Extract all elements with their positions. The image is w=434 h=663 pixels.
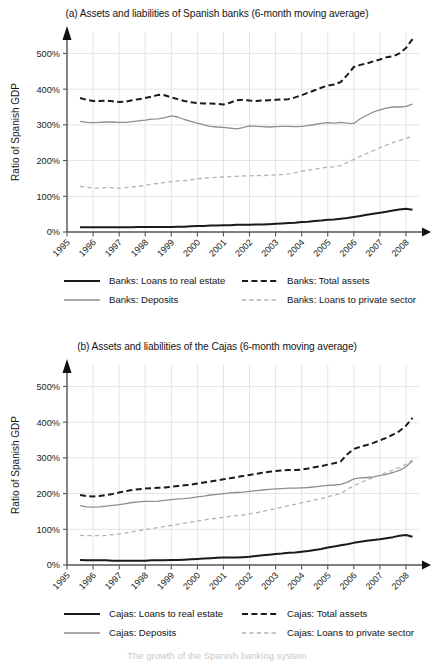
y-tick-label: 100% [37, 525, 61, 535]
gridlines [67, 32, 419, 232]
legend-item[interactable]: Banks: Loans to real estate [62, 272, 240, 289]
x-tick-label: 1999 [155, 237, 176, 258]
x-tick-label: 2008 [390, 570, 411, 591]
x-tick-label: 1996 [77, 237, 98, 258]
x-tick-label: 2004 [285, 570, 306, 591]
series-line [80, 209, 412, 228]
x-tick-label: 2002 [233, 570, 254, 591]
legend-item-label: Banks: Loans to private sector [287, 294, 416, 306]
legend-item-label: Cajas: Deposits [109, 627, 176, 639]
panel-b-legend: Cajas: Loans to real estateCajas: Total … [0, 603, 434, 641]
x-tick-label: 1999 [155, 570, 176, 591]
chart-panel-a: (a) Assets and liabilities of Spanish ba… [0, 0, 434, 333]
y-tick-label: 0% [47, 227, 60, 237]
panel-b-title: (b) Assets and liabilities of the Cajas … [0, 333, 434, 353]
x-tick-label: 1996 [77, 570, 98, 591]
x-tick-label: 2007 [364, 570, 385, 591]
legend-item-label: Cajas: Loans to private sector [287, 627, 414, 639]
x-tick-label: 2005 [311, 570, 332, 591]
legend-line-swatch-icon [240, 294, 280, 306]
x-axis-ticks: 1995199619971998199920002001200220032004… [51, 565, 411, 592]
legend-item[interactable]: Cajas: Loans to private sector [240, 624, 422, 641]
axes [63, 26, 432, 237]
x-tick-label: 2003 [259, 570, 280, 591]
x-tick-label: 1997 [103, 237, 124, 258]
y-tick-label: 300% [37, 453, 61, 463]
series-line [80, 418, 412, 497]
y-tick-label: 500% [37, 49, 61, 59]
x-tick-label: 2007 [364, 237, 385, 258]
x-tick-label: 1998 [129, 570, 150, 591]
figure-root: (a) Assets and liabilities of Spanish ba… [0, 0, 434, 663]
legend-line-swatch-icon [240, 627, 280, 639]
legend-line-swatch-icon [240, 275, 280, 287]
series-line [80, 460, 412, 536]
x-tick-label: 2001 [207, 570, 228, 591]
y-tick-label: 200% [37, 156, 61, 166]
x-tick-label: 2003 [259, 237, 280, 258]
series-line [80, 461, 412, 507]
y-axis-ticks: 0%100%200%300%400%500% [37, 49, 68, 238]
legend-item-label: Cajas: Loans to real estate [109, 608, 223, 620]
legend-item[interactable]: Cajas: Total assets [240, 605, 422, 622]
gridlines [67, 365, 419, 565]
y-axis-title: Ratio of Spanish GDP [10, 83, 21, 181]
x-tick-label: 2002 [233, 237, 254, 258]
y-axis-title: Ratio of Spanish GDP [10, 416, 21, 514]
y-tick-label: 400% [37, 418, 61, 428]
x-tick-label: 2005 [311, 237, 332, 258]
x-tick-label: 2001 [207, 237, 228, 258]
x-tick-label: 1995 [51, 237, 72, 258]
panel-a-title: (a) Assets and liabilities of Spanish ba… [0, 0, 434, 20]
x-tick-label: 2000 [181, 570, 202, 591]
panel-a-legend: Banks: Loans to real estateBanks: Total … [0, 270, 434, 308]
x-tick-label: 1997 [103, 570, 124, 591]
legend-item[interactable]: Banks: Total assets [240, 272, 422, 289]
legend-line-swatch-icon [62, 627, 102, 639]
y-tick-label: 0% [47, 560, 60, 570]
legend-item-label: Banks: Total assets [287, 275, 369, 287]
series-line [80, 535, 412, 561]
legend-item[interactable]: Cajas: Loans to real estate [62, 605, 240, 622]
x-tick-label: 1998 [129, 237, 150, 258]
legend-line-swatch-icon [62, 294, 102, 306]
y-tick-label: 100% [37, 192, 61, 202]
plot-a-svg: 0%100%200%300%400%500%Ratio of Spanish G… [0, 20, 434, 270]
legend-item[interactable]: Banks: Deposits [62, 291, 240, 308]
axes [63, 359, 432, 570]
legend-line-swatch-icon [62, 275, 102, 287]
x-axis-ticks: 1995199619971998199920002001200220032004… [51, 232, 411, 259]
x-tick-label: 2006 [337, 237, 358, 258]
legend-line-swatch-icon [62, 608, 102, 620]
legend-item-label: Banks: Deposits [109, 294, 178, 306]
x-tick-label: 2008 [390, 237, 411, 258]
panel-a-plot-area: 0%100%200%300%400%500%Ratio of Spanish G… [0, 20, 434, 270]
x-tick-label: 2006 [337, 570, 358, 591]
x-tick-label: 1995 [51, 570, 72, 591]
figure-footnote: The growth of the Spanish banking system [0, 650, 434, 663]
y-axis-ticks: 0%100%200%300%400%500% [37, 382, 68, 571]
legend-item[interactable]: Banks: Loans to private sector [240, 291, 422, 308]
y-tick-label: 400% [37, 85, 61, 95]
y-tick-label: 300% [37, 120, 61, 130]
y-tick-label: 200% [37, 489, 61, 499]
legend-line-swatch-icon [240, 608, 280, 620]
plot-b-svg: 0%100%200%300%400%500%Ratio of Spanish G… [0, 353, 434, 603]
legend-item-label: Banks: Loans to real estate [109, 275, 225, 287]
series-line [80, 39, 412, 104]
series-line [80, 136, 412, 188]
panel-b-plot-area: 0%100%200%300%400%500%Ratio of Spanish G… [0, 353, 434, 603]
y-tick-label: 500% [37, 382, 61, 392]
chart-panel-b: (b) Assets and liabilities of the Cajas … [0, 333, 434, 663]
legend-item[interactable]: Cajas: Deposits [62, 624, 240, 641]
legend-item-label: Cajas: Total assets [287, 608, 367, 620]
x-tick-label: 2000 [181, 237, 202, 258]
x-tick-label: 2004 [285, 237, 306, 258]
